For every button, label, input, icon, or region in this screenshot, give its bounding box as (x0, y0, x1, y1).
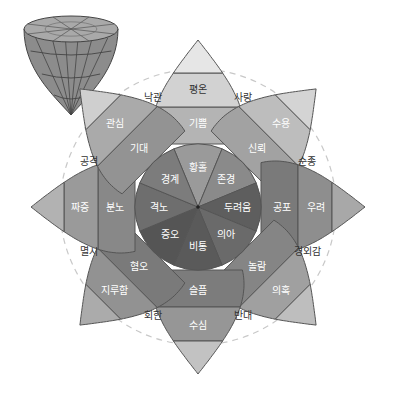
emotion-label-outer: 지루함 (101, 285, 128, 296)
emotion-label-inner: 비통 (189, 241, 207, 252)
tip-band (173, 341, 222, 374)
dyad-label: 낙관 (144, 92, 162, 103)
emotion-label-inner: 두려움 (224, 202, 251, 213)
dyad-label: 멸시 (80, 246, 98, 257)
emotion-label-outer: 관심 (106, 118, 124, 129)
emotion-label-inner: 황홀 (189, 161, 207, 173)
dyad-label: 회한 (144, 310, 162, 321)
emotion-label-outer: 의혹 (272, 284, 290, 296)
dyad-label: 경외감 (294, 245, 321, 257)
emotion-label-outer: 평온 (189, 84, 207, 95)
emotion-label-outer: 우려 (307, 202, 325, 213)
dyad-label: 순종 (298, 156, 316, 167)
tip-band (173, 40, 222, 73)
emotion-label-inner: 의아 (217, 229, 235, 240)
emotion-label-outer: 수용 (272, 118, 290, 129)
emotion-label-middle: 혐오 (130, 261, 148, 272)
emotion-label-middle: 놀람 (248, 260, 266, 272)
emotion-label-inner: 증오 (161, 229, 179, 240)
dyad-label: 사랑 (234, 92, 252, 103)
tip-band (31, 182, 64, 231)
emotion-label-middle: 분노 (106, 202, 124, 213)
emotion-wheel-diagram: 황홀기쁨평온존경신뢰수용두려움공포우려의아놀람의혹비통슬픔수심증오혐오지루함격노… (0, 0, 394, 399)
emotion-label-middle: 신뢰 (248, 143, 266, 154)
tip-band (332, 182, 365, 231)
emotion-label-inner: 경계 (161, 173, 179, 185)
center-dot (196, 205, 200, 209)
emotion-label-middle: 기대 (130, 143, 148, 154)
emotion-label-middle: 기쁨 (189, 118, 207, 129)
emotion-label-inner: 격노 (150, 201, 168, 213)
dyad-label: 공격 (80, 155, 98, 167)
emotion-label-middle: 슬픔 (189, 285, 207, 296)
emotion-label-outer: 짜증 (71, 202, 89, 213)
emotion-label-outer: 수심 (189, 320, 207, 331)
dyad-label: 반대 (234, 310, 252, 321)
emotion-label-middle: 공포 (273, 202, 291, 213)
emotion-label-inner: 존경 (217, 173, 235, 185)
